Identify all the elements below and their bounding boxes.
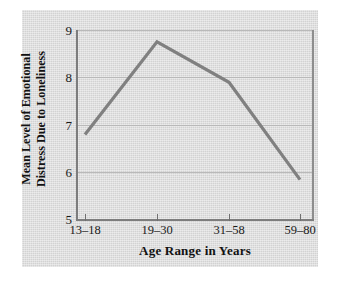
x-tick-mark-4 bbox=[300, 214, 301, 221]
right-axis-spine bbox=[312, 30, 314, 221]
y-tick-label-6: 6 bbox=[58, 166, 72, 179]
y-tick-label-8: 8 bbox=[58, 71, 72, 84]
x-tick-label-2: 19–30 bbox=[127, 224, 187, 237]
x-tick-mark-3 bbox=[229, 214, 230, 221]
x-tick-mark-2 bbox=[157, 214, 158, 221]
x-tick-label-1: 13–18 bbox=[55, 224, 115, 237]
x-axis-spine bbox=[76, 219, 314, 221]
chart-figure: 9 8 7 6 5 13–18 19–30 31–58 59–80 Age Ra… bbox=[0, 0, 342, 282]
gridline-6 bbox=[76, 172, 313, 173]
y-tick-label-7: 7 bbox=[58, 119, 72, 132]
gridline-7 bbox=[76, 125, 313, 126]
x-tick-mark-1 bbox=[85, 214, 86, 221]
y-axis-title: Mean Level of Emotional Distress Due to … bbox=[19, 24, 49, 214]
x-tick-label-4: 59–80 bbox=[270, 224, 330, 237]
y-axis-title-line-2: Distress Due to Loneliness bbox=[34, 24, 49, 214]
gridline-8 bbox=[76, 77, 313, 78]
plot-area bbox=[76, 30, 313, 220]
y-axis-spine bbox=[76, 30, 78, 221]
x-tick-label-3: 31–58 bbox=[199, 224, 259, 237]
y-axis-tick-labels: 9 8 7 6 5 bbox=[56, 0, 72, 282]
gridline-9 bbox=[76, 30, 313, 31]
y-axis-title-line-1: Mean Level of Emotional bbox=[19, 24, 34, 214]
y-tick-label-9: 9 bbox=[58, 24, 72, 37]
x-axis-title: Age Range in Years bbox=[76, 243, 314, 259]
